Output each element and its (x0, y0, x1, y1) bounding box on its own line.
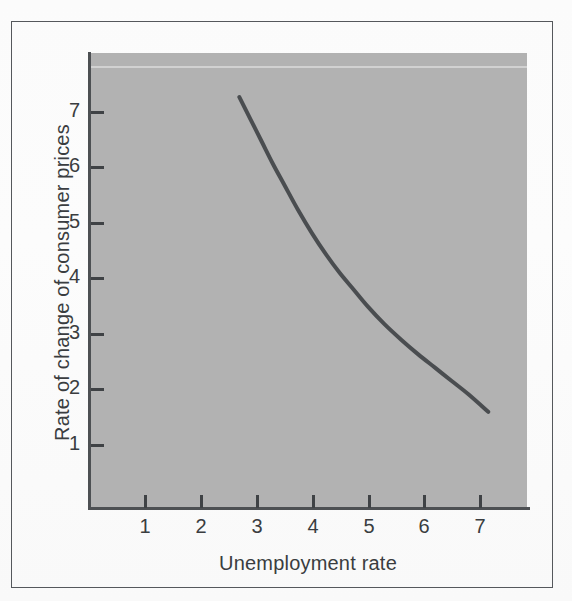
plot-area-background (90, 53, 527, 508)
x-axis-tick-label: 3 (237, 516, 277, 536)
x-axis-tick-label: 4 (293, 516, 333, 536)
plot-area-scanline (90, 66, 527, 68)
y-axis-tick (91, 388, 104, 391)
x-axis-title: Unemployment rate (0, 552, 572, 575)
x-axis-line (88, 507, 530, 510)
x-axis-tick-label: 2 (181, 516, 221, 536)
x-axis-tick (368, 495, 371, 508)
figure-root: 7 6 5 4 3 2 1 1 2 3 4 5 6 7 Unemployment… (0, 0, 572, 601)
x-axis-tick-label: 5 (349, 516, 389, 536)
x-axis-tick (256, 495, 259, 508)
y-axis-title: Rate of change of consumer prices (51, 73, 74, 493)
x-axis-tick-label: 1 (125, 516, 165, 536)
x-axis-tick-label: 7 (460, 516, 500, 536)
x-axis-tick (312, 495, 315, 508)
y-axis-tick (91, 444, 104, 447)
x-axis-tick-label: 6 (404, 516, 444, 536)
x-axis-tick (479, 495, 482, 508)
y-axis-tick (91, 222, 104, 225)
y-axis-tick (91, 277, 104, 280)
y-axis-tick (91, 333, 104, 336)
x-axis-tick (200, 495, 203, 508)
x-axis-tick (144, 495, 147, 508)
y-axis-tick (91, 111, 104, 114)
x-axis-title-text: Unemployment rate (219, 552, 397, 574)
x-axis-tick (423, 495, 426, 508)
y-axis-tick (91, 166, 104, 169)
y-axis-line (88, 52, 91, 510)
